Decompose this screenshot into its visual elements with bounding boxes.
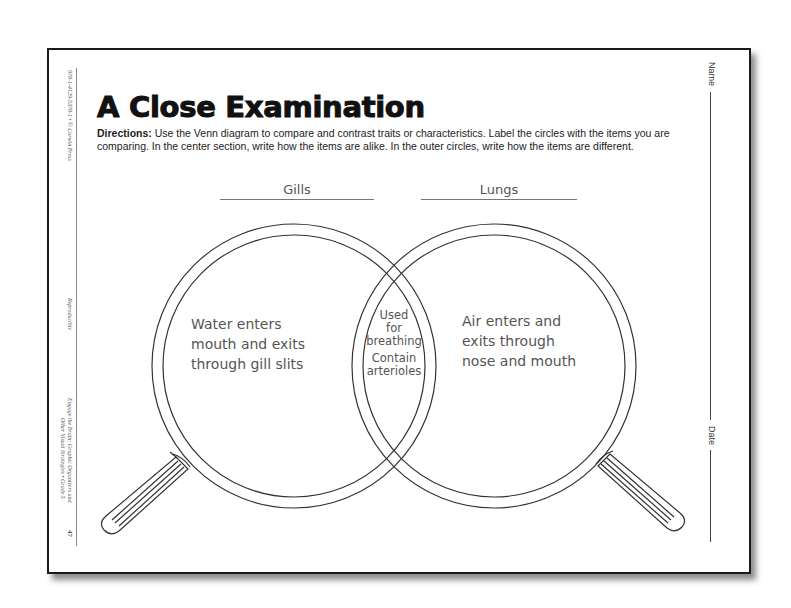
right-only-line: exits through — [462, 331, 576, 351]
right-only-line: Air enters and — [462, 311, 576, 331]
left-only-text[interactable]: Water enters mouth and exits through gil… — [191, 314, 305, 374]
right-only-line: nose and mouth — [462, 351, 576, 371]
left-only-line: through gill slits — [191, 354, 305, 374]
right-magnifier-handle-icon — [596, 451, 685, 531]
overlap-text[interactable]: Used for breathing Contain arterioles — [354, 309, 434, 378]
overlap-line: arterioles — [354, 365, 434, 378]
left-only-line: mouth and exits — [191, 334, 305, 354]
left-only-line: Water enters — [191, 314, 305, 334]
overlap-line: breathing — [354, 335, 434, 348]
right-only-text[interactable]: Air enters and exits through nose and mo… — [462, 311, 576, 371]
venn-diagram — [0, 0, 791, 608]
left-magnifier-handle-icon — [101, 452, 190, 534]
